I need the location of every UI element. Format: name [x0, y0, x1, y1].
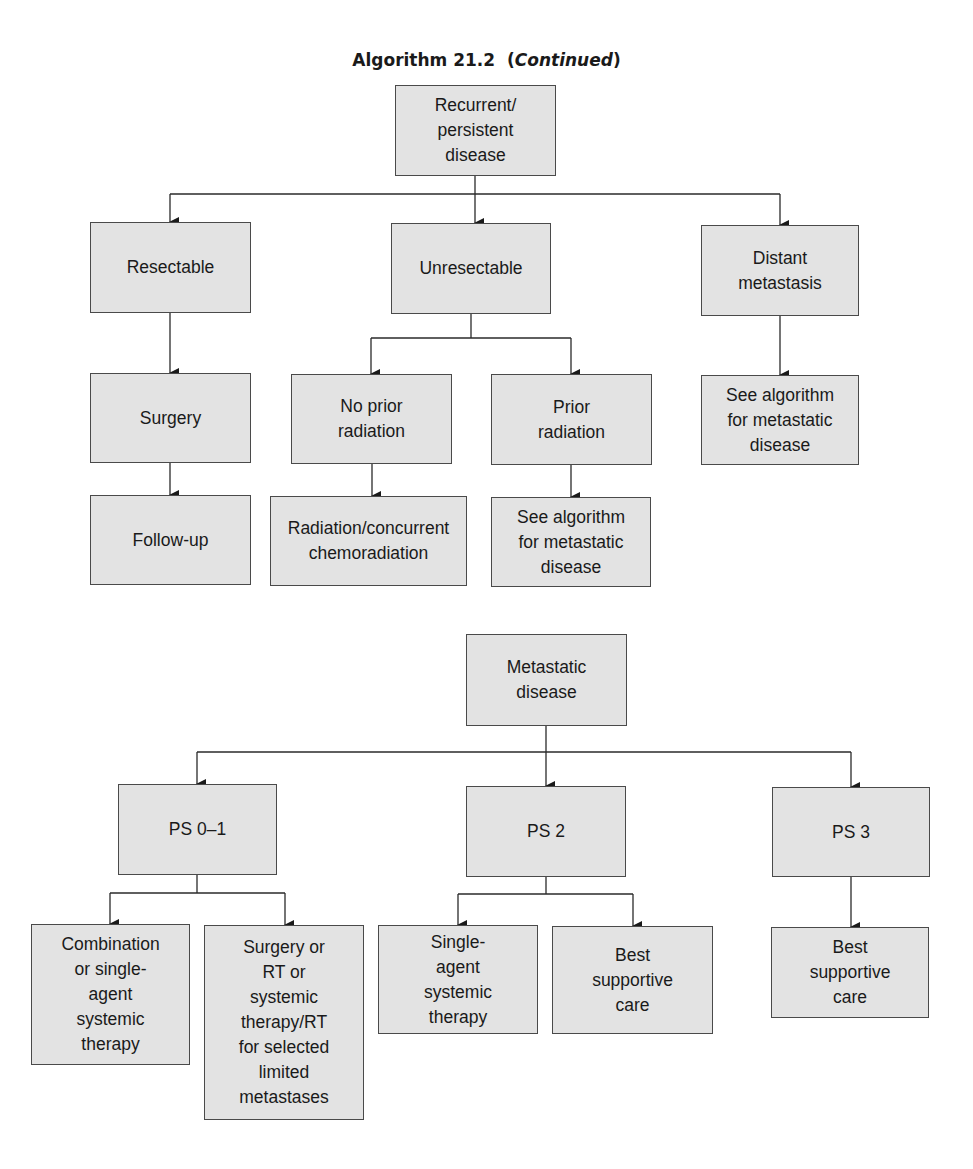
node-single-agent-therapy: Single- agent systemic therapy	[378, 925, 538, 1034]
node-metastatic-disease: Metastatic disease	[466, 634, 627, 726]
node-combination-therapy: Combination or single- agent systemic th…	[31, 924, 190, 1065]
node-see-algorithm-prior: See algorithm for metastatic disease	[491, 497, 651, 587]
node-prior-radiation: Prior radiation	[491, 374, 652, 465]
node-follow-up: Follow-up	[90, 495, 251, 585]
node-recurrent-persistent-disease: Recurrent/ persistent disease	[395, 85, 556, 176]
node-resectable: Resectable	[90, 222, 251, 313]
node-best-supportive-care-ps3: Best supportive care	[771, 927, 929, 1018]
node-radiation-chemoradiation: Radiation/concurrent chemoradiation	[270, 496, 467, 586]
node-distant-metastasis: Distant metastasis	[701, 225, 859, 316]
node-ps-0-1: PS 0–1	[118, 784, 277, 875]
node-ps-2: PS 2	[466, 786, 626, 877]
node-surgery-rt-limited-metastases: Surgery or RT or systemic therapy/RT for…	[204, 925, 364, 1120]
node-ps-3: PS 3	[772, 787, 930, 877]
node-surgery: Surgery	[90, 373, 251, 463]
node-unresectable: Unresectable	[391, 223, 551, 314]
node-no-prior-radiation: No prior radiation	[291, 374, 452, 464]
node-see-algorithm-distant: See algorithm for metastatic disease	[701, 375, 859, 465]
node-best-supportive-care-ps2: Best supportive care	[552, 926, 713, 1034]
